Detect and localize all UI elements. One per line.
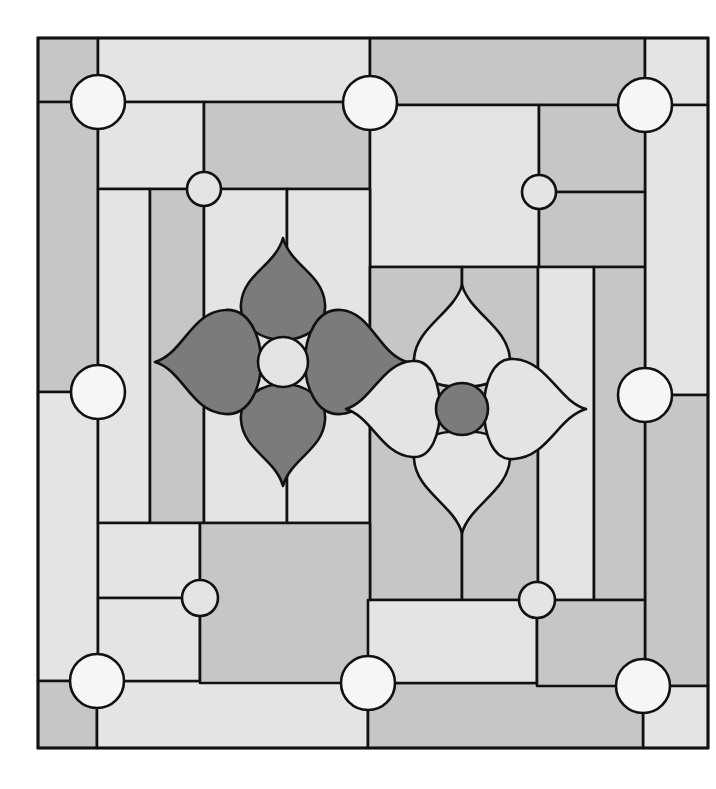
- stained-glass-panel: [0, 0, 716, 789]
